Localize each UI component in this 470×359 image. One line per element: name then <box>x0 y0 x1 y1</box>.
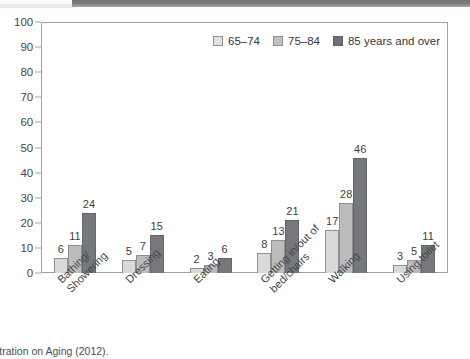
bar-slot: 3 <box>204 22 218 273</box>
legend-item[interactable]: 85 years and over <box>333 35 440 47</box>
y-axis: 0102030405060708090100 <box>0 22 41 273</box>
bar-slot: 15 <box>150 22 164 273</box>
bar-slot: 28 <box>339 22 353 273</box>
bar-value-label: 13 <box>272 226 284 237</box>
bar-value-label: 6 <box>222 244 228 255</box>
bar-slot: 24 <box>82 22 96 273</box>
page-edge-light-strip <box>0 4 74 8</box>
y-axis-tick-label: 10 <box>20 242 33 254</box>
bar-value-label: 21 <box>286 206 298 217</box>
bar-value-label: 2 <box>194 254 200 265</box>
y-axis-tick-label: 60 <box>20 116 33 128</box>
legend-swatch-icon <box>213 36 223 46</box>
page-edge-dark-strip <box>72 0 470 7</box>
plot-area: 611245715236813211728463511 <box>41 22 448 273</box>
y-axis-tick-label: 50 <box>20 142 33 154</box>
bar-value-label: 11 <box>69 231 80 242</box>
bar-slot: 11 <box>68 22 82 273</box>
bar-group: 236 <box>177 22 245 273</box>
bar-slot: 2 <box>190 22 204 273</box>
bar-value-label: 8 <box>261 239 267 250</box>
y-axis-tick-label: 20 <box>20 217 33 229</box>
bar-slot: 5 <box>122 22 136 273</box>
bar-value-label: 17 <box>326 216 338 227</box>
bar-value-label: 15 <box>151 221 163 232</box>
bar-group: 3511 <box>380 22 448 273</box>
bar-slot: 6 <box>218 22 232 273</box>
y-axis-tick-label: 70 <box>20 91 33 103</box>
bar-value-label: 5 <box>126 246 132 257</box>
bar-slot: 8 <box>257 22 271 273</box>
y-axis-tick-label: 40 <box>20 167 33 179</box>
bar-group: 61124 <box>41 22 109 273</box>
bar-slot: 5 <box>407 22 421 273</box>
legend-item[interactable]: 75–84 <box>273 35 320 47</box>
page-scan-top-edge <box>0 0 470 9</box>
bar-value-label: 46 <box>354 144 366 155</box>
legend-item-label: 85 years and over <box>348 35 440 47</box>
bar-slot: 46 <box>353 22 367 273</box>
y-axis-tick-label: 80 <box>20 66 33 78</box>
bar-value-label: 7 <box>140 241 146 252</box>
bar-slot: 3 <box>393 22 407 273</box>
bar-chart-figure: 0102030405060708090100 61124571523681321… <box>0 9 470 359</box>
bar-value-label: 3 <box>397 251 403 262</box>
y-axis-tick-label: 30 <box>20 192 33 204</box>
bar-value-label: 6 <box>58 244 64 255</box>
bar-value-label: 24 <box>83 199 95 210</box>
y-axis-tick-label: 100 <box>14 16 33 28</box>
chart-legend: 65–7475–8485 years and over <box>213 35 440 47</box>
legend-swatch-icon <box>333 36 343 46</box>
bar-slot: 7 <box>136 22 150 273</box>
legend-swatch-icon <box>273 36 283 46</box>
bar-slot: 6 <box>54 22 68 273</box>
source-caption: Administration on Aging (2012). <box>0 345 109 357</box>
legend-item-label: 75–84 <box>288 35 320 47</box>
bar-group: 5715 <box>109 22 177 273</box>
y-axis-tick-label: 90 <box>20 41 33 53</box>
legend-item-label: 65–74 <box>228 35 260 47</box>
bar-slot: 21 <box>285 22 299 273</box>
y-axis-tick-label: 0 <box>27 267 33 279</box>
bar-slot: 13 <box>271 22 285 273</box>
bar-slot: 17 <box>325 22 339 273</box>
bar-value-label: 28 <box>340 189 352 200</box>
legend-item[interactable]: 65–74 <box>213 35 260 47</box>
bar-slot: 11 <box>421 22 435 273</box>
